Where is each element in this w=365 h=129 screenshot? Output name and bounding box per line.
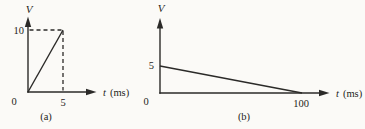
data-line bbox=[28, 30, 63, 92]
x-axis-label-unit: (ms) bbox=[110, 87, 130, 99]
x-axis-arrowhead-icon bbox=[86, 89, 97, 95]
origin-label: 0 bbox=[143, 96, 148, 107]
x-axis-label-unit: (ms) bbox=[343, 88, 363, 100]
chart-a: V 10 0 5 t(ms) (a) bbox=[11, 3, 129, 123]
chart-b: V 5 0 100 t(ms) (b) bbox=[143, 2, 362, 123]
panel-caption-a: (a) bbox=[40, 111, 52, 123]
x-axis-label-variable: t bbox=[103, 87, 107, 98]
data-line bbox=[160, 66, 302, 93]
x-axis-label: t(ms) bbox=[336, 88, 363, 100]
x-axis-label-variable: t bbox=[336, 88, 340, 99]
y-axis-label: V bbox=[26, 3, 34, 15]
x-axis-arrowhead-icon bbox=[319, 90, 330, 96]
y-axis-arrowhead-icon bbox=[25, 17, 31, 28]
y-axis-label: V bbox=[158, 2, 166, 14]
y-tick-label: 5 bbox=[149, 60, 154, 71]
y-tick-label: 10 bbox=[14, 25, 25, 36]
figure-canvas: V 10 0 5 t(ms) (a) V 5 0 100 t(ms) (b) bbox=[0, 0, 365, 129]
x-tick-label: 100 bbox=[293, 98, 309, 109]
voltage-waveform-figure: V 10 0 5 t(ms) (a) V 5 0 100 t(ms) (b) bbox=[0, 0, 365, 129]
panel-caption-b: (b) bbox=[238, 111, 251, 123]
x-axis-label: t(ms) bbox=[103, 87, 130, 99]
origin-label: 0 bbox=[11, 96, 16, 107]
x-tick-label: 5 bbox=[60, 97, 65, 108]
y-axis-arrowhead-icon bbox=[157, 18, 163, 29]
